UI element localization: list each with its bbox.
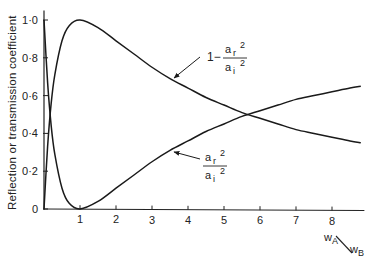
- x-tick-label: 1: [77, 213, 83, 225]
- y-tick-label: 0·6: [22, 90, 38, 102]
- y-tick-label: 0·4: [22, 127, 38, 139]
- x-tick-label: 6: [257, 214, 263, 226]
- x-tick-label: 5: [221, 214, 227, 226]
- svg-text:a: a: [205, 151, 212, 163]
- transmission-annotation: 1−ar2ai2: [174, 40, 247, 78]
- svg-text:2: 2: [220, 148, 225, 158]
- svg-text:w: w: [323, 231, 332, 243]
- label-prefix: 1−: [207, 50, 221, 64]
- x-axis-ticks: 12345678: [77, 205, 335, 226]
- svg-text:a: a: [225, 61, 232, 73]
- svg-text:2: 2: [240, 40, 245, 50]
- svg-text:B: B: [358, 248, 364, 258]
- y-tick-label: 0·8: [22, 52, 38, 64]
- svg-text:r: r: [213, 156, 216, 166]
- annotations: 1−ar2ai2ar2ai2: [174, 40, 247, 184]
- x-tick-label: 4: [185, 214, 191, 226]
- y-tick-label: 1·0: [22, 14, 38, 26]
- y-tick-label: 0·2: [22, 165, 38, 177]
- x-axis-label: wAwB: [323, 231, 364, 258]
- y-tick-label: 0: [32, 203, 38, 215]
- svg-text:i: i: [213, 174, 215, 184]
- svg-text:r: r: [233, 48, 236, 58]
- x-tick-label: 3: [149, 214, 155, 226]
- svg-text:2: 2: [240, 58, 245, 68]
- curve-reflection: [44, 20, 361, 209]
- x-tick-label: 2: [113, 213, 119, 225]
- svg-text:w: w: [349, 243, 358, 255]
- svg-text:a: a: [225, 43, 232, 55]
- chart: 00·20·40·60·81·0 12345678 1−ar2ai2ar2ai2…: [0, 0, 377, 258]
- svg-text:i: i: [233, 66, 235, 76]
- svg-text:a: a: [205, 169, 212, 181]
- curves: [44, 20, 361, 209]
- curve-transmission: [44, 20, 361, 209]
- x-tick-label: 7: [293, 214, 299, 226]
- svg-text:2: 2: [220, 166, 225, 176]
- x-axis-line: [44, 209, 364, 211]
- x-tick-label: 8: [329, 215, 335, 227]
- reflection-annotation: ar2ai2: [174, 148, 227, 184]
